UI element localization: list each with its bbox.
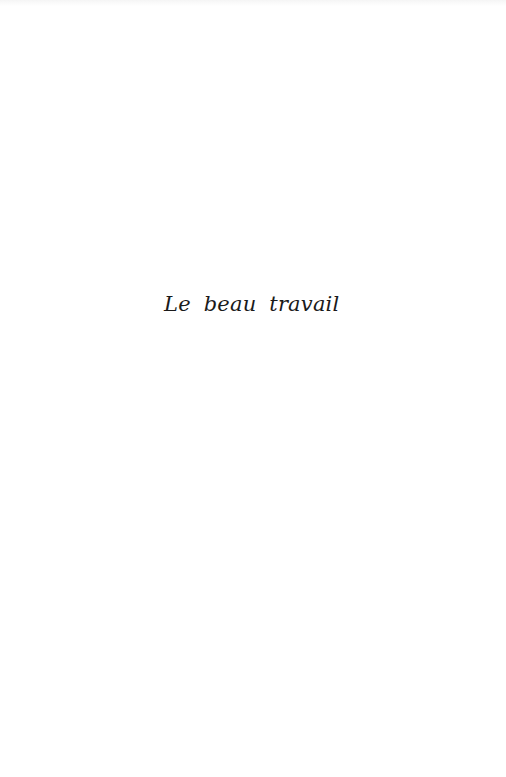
page-title: Le beau travail [164,292,339,316]
page-top-edge [0,0,506,6]
book-page: Le beau travail [0,0,506,777]
